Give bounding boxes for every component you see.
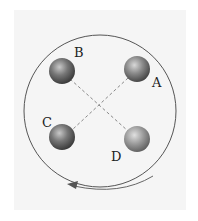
label-c: C	[42, 115, 52, 130]
rotating-disc-diagram: A B C D	[0, 0, 198, 221]
label-a: A	[151, 75, 162, 90]
ball-b	[49, 58, 75, 84]
disc-outline	[24, 35, 176, 187]
rotation-arrow-arc	[74, 176, 153, 189]
dashed-line-a-c	[72, 78, 128, 130]
ball-a	[124, 56, 150, 82]
label-b: B	[74, 45, 84, 60]
ball-d	[124, 126, 150, 152]
ball-c	[49, 124, 75, 150]
label-d: D	[111, 149, 121, 164]
